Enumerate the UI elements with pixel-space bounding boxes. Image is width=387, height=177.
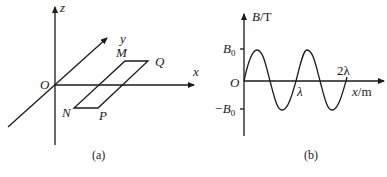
z-axis-label: z: [59, 0, 65, 15]
figure-canvas: z y x O M Q P N (a) B/T B0 −B0 O λ 2λ x/…: [0, 0, 387, 177]
corner-label-q: Q: [155, 54, 165, 69]
b0-label-symbol: B: [223, 41, 231, 56]
origin-label: O: [40, 77, 50, 92]
neg-b0-label-subscript: 0: [231, 108, 236, 118]
b-axis-label: B/T: [252, 9, 272, 24]
corner-label-n: N: [61, 105, 72, 120]
figure-b: B/T B0 −B0 O λ 2λ x/m (b): [214, 9, 384, 162]
b-axis-label-unit: /T: [260, 9, 272, 24]
b-axis-label-symbol: B: [252, 9, 260, 24]
neg-b0-label-symbol: −B: [214, 101, 231, 116]
b0-label: B0: [223, 41, 236, 58]
figure-a: z y x O M Q P N (a): [8, 0, 199, 162]
origin-label-b: O: [230, 75, 240, 90]
caption-a: (a): [92, 148, 105, 162]
caption-b: (b): [304, 148, 318, 162]
y-axis-label: y: [118, 31, 126, 46]
corner-label-m: M: [115, 45, 128, 60]
y-axis: [8, 38, 107, 127]
sine-wave: [244, 50, 347, 110]
two-lambda-label: 2λ: [337, 63, 351, 78]
neg-b0-label: −B0: [214, 101, 236, 118]
lambda-label: λ: [296, 84, 303, 99]
corner-label-p: P: [98, 108, 107, 123]
b0-label-subscript: 0: [231, 48, 236, 58]
x-axis-label-unit: /m: [358, 84, 372, 99]
x-axis-label: x: [192, 64, 199, 79]
x-axis-label-b: x/m: [351, 84, 372, 99]
